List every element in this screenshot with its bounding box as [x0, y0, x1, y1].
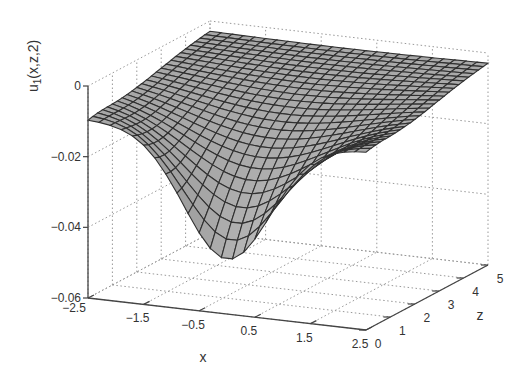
x-tick-label: 0.5	[240, 324, 257, 338]
x-tick-label: 1.5	[296, 331, 313, 345]
z-tick-label: 4	[472, 285, 479, 299]
z-tick-label: 1	[399, 324, 406, 338]
surface-mesh	[88, 31, 488, 259]
u-tick-label: 0	[74, 79, 81, 93]
z-tick-label: 0	[375, 337, 382, 351]
x-tick-label: −1.5	[126, 311, 150, 325]
z-tick-label: 5	[497, 272, 504, 286]
z-axis-label: z	[477, 307, 484, 323]
x-tick-label: 2.5	[352, 337, 369, 351]
x-tick-label: −0.5	[181, 318, 205, 332]
x-axis-label: x	[200, 349, 207, 365]
surface-plot: 0−0.02−0.04−0.06−2.5−1.5−0.50.51.52.5012…	[0, 0, 531, 381]
u-tick-label: −0.02	[51, 150, 82, 164]
z-tick-label: 2	[423, 311, 430, 325]
u-axis-label: u1(x,z,2)	[25, 40, 43, 92]
z-tick-label: 3	[448, 298, 455, 312]
u-tick-label: −0.04	[51, 220, 82, 234]
x-tick-label: −2.5	[62, 301, 86, 315]
